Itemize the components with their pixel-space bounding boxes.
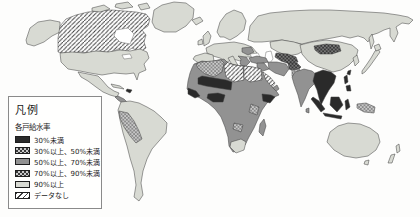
legend-item-label: 70%以上、90%未満	[34, 168, 100, 178]
region-philippines-north	[344, 75, 348, 84]
region-russia	[248, 10, 413, 44]
legend-item-70-90: 70%以上、90%未満	[15, 169, 96, 178]
swatch-50-70-icon	[15, 158, 30, 165]
legend-subtitle: 各戸給水率	[15, 121, 96, 132]
region-cuba	[111, 84, 124, 89]
swatch-70-90-icon	[15, 170, 30, 177]
region-hispaniola	[126, 89, 132, 93]
legend-item-label: データなし	[34, 190, 69, 200]
region-taiwan	[347, 70, 351, 75]
region-arctic-island-3	[138, 3, 150, 10]
region-iran	[268, 62, 289, 76]
legend-item-label: 90%以上	[34, 179, 64, 189]
world-water-supply-map-figure: 凡例 各戸給水率 30%未満 30%以上、50%未満 50%以上、70%未満 7…	[0, 0, 420, 217]
region-uk	[203, 31, 211, 46]
region-egypt	[244, 66, 262, 82]
legend-item-label: 30%未満	[34, 135, 64, 145]
region-sri-lanka	[306, 108, 309, 113]
swatch-over-90-icon	[15, 181, 30, 188]
region-ireland	[198, 39, 203, 45]
legend-item-label: 50%以上、70%未満	[34, 157, 100, 167]
swatch-30-50-icon	[15, 147, 30, 154]
region-japan-honshu	[362, 49, 380, 74]
region-java	[323, 113, 342, 119]
legend-item-50-70: 50%以上、70%未満	[15, 157, 96, 166]
region-usa	[60, 49, 149, 80]
region-borneo	[330, 97, 343, 112]
region-philippines-south	[346, 85, 351, 91]
swatch-under-30-icon	[15, 136, 30, 143]
legend-item-under-30: 30%未満	[15, 135, 96, 144]
region-tasmania	[364, 160, 369, 165]
legend-item-30-50: 30%以上、50%未満	[15, 146, 96, 155]
region-iceland	[192, 17, 203, 25]
swatch-no-data-icon	[15, 192, 30, 199]
region-madagascar	[259, 119, 266, 136]
region-australia	[327, 123, 380, 158]
legend-item-over-90: 90%以上	[15, 180, 96, 189]
region-canada	[58, 10, 150, 53]
region-new-zealand-south	[388, 154, 395, 163]
region-arctic-island-2	[115, 2, 133, 9]
region-mongolia	[314, 44, 341, 54]
region-alaska	[26, 20, 60, 46]
legend-box: 凡例 各戸給水率 30%未満 30%以上、50%未満 50%以上、70%未満 7…	[8, 96, 102, 209]
region-new-zealand-north	[396, 144, 400, 153]
region-greenland	[152, 2, 194, 32]
region-sulawesi	[345, 99, 350, 110]
legend-item-label: 30%以上、50%未満	[34, 146, 100, 156]
legend-item-no-data: データなし	[15, 191, 96, 200]
great-lakes	[122, 54, 132, 59]
legend-title: 凡例	[15, 101, 96, 117]
region-scandinavia	[217, 10, 246, 40]
region-japan-hokkaido	[374, 44, 381, 51]
region-new-guinea	[357, 103, 375, 113]
